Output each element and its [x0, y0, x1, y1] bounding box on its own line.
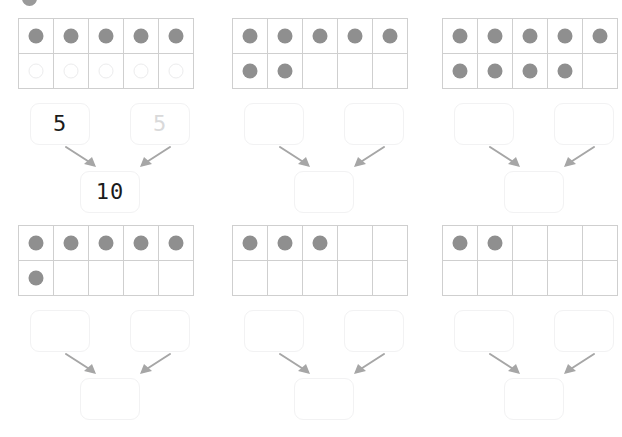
- ten-frame-cell-top-3[interactable]: [513, 226, 548, 261]
- ten-frame-cell-top-2[interactable]: [268, 19, 303, 54]
- ten-frame-cell-bottom-4[interactable]: [548, 54, 583, 89]
- ten-frame-cell-top-1[interactable]: [233, 19, 268, 54]
- number-bond-exercise: [442, 8, 622, 218]
- number-bond: [18, 310, 218, 425]
- ten-frame-cell-top-1[interactable]: [233, 226, 268, 261]
- ten-frame-cell-bottom-5[interactable]: [159, 261, 194, 296]
- number-bond-sum-box[interactable]: [80, 378, 140, 420]
- ten-frame-cell-bottom-4[interactable]: [124, 54, 159, 89]
- counter-dot-icon: [169, 236, 184, 251]
- ten-frame-cell-bottom-1[interactable]: [443, 54, 478, 89]
- ten-frame-cell-top-5[interactable]: [373, 226, 408, 261]
- ten-frame: [232, 18, 408, 89]
- number-bond-addend-left-box[interactable]: [30, 310, 90, 352]
- ten-frame-cell-top-5[interactable]: [583, 19, 618, 54]
- ten-frame-cell-top-4[interactable]: [338, 19, 373, 54]
- ten-frame-cell-top-3[interactable]: [513, 19, 548, 54]
- ten-frame-cell-bottom-2[interactable]: [478, 54, 513, 89]
- number-bond-sum-box[interactable]: [294, 171, 354, 213]
- number-bond-addend-left-box[interactable]: 5: [30, 103, 90, 145]
- ten-frame-cell-bottom-5[interactable]: [159, 54, 194, 89]
- ten-frame-cell-top-2[interactable]: [268, 226, 303, 261]
- ten-frame-cell-bottom-3[interactable]: [303, 261, 338, 296]
- ten-frame-cell-top-3[interactable]: [303, 226, 338, 261]
- ten-frame-cell-top-2[interactable]: [54, 19, 89, 54]
- ten-frame-cell-top-2[interactable]: [54, 226, 89, 261]
- number-bond-addend-right-box[interactable]: 5: [130, 103, 190, 145]
- counter-dot-icon: [453, 236, 468, 251]
- number-bond: [232, 310, 432, 425]
- number-bond-addend-left-box[interactable]: [244, 103, 304, 145]
- ten-frame-cell-top-1[interactable]: [19, 226, 54, 261]
- number-bond-exercise: 55 10: [18, 8, 218, 218]
- ten-frame-cell-bottom-2[interactable]: [268, 54, 303, 89]
- counter-dot-icon: [488, 64, 503, 79]
- ten-frame-cell-bottom-1[interactable]: [233, 54, 268, 89]
- ten-frame-cell-top-5[interactable]: [373, 19, 408, 54]
- counter-dot-icon: [488, 236, 503, 251]
- number-bond-addend-left-box[interactable]: [244, 310, 304, 352]
- ten-frame-cell-bottom-5[interactable]: [583, 54, 618, 89]
- ten-frame-cell-bottom-2[interactable]: [54, 54, 89, 89]
- counter-dot-icon: [134, 29, 149, 44]
- ten-frame-cell-bottom-1[interactable]: [443, 261, 478, 296]
- ten-frame-cell-bottom-2[interactable]: [268, 261, 303, 296]
- number-bond-addend-left-value: 5: [53, 113, 67, 135]
- ten-frame-cell-bottom-1[interactable]: [19, 261, 54, 296]
- number-bond-addend-left-box[interactable]: [454, 103, 514, 145]
- ten-frame-cell-top-3[interactable]: [89, 226, 124, 261]
- counter-dot-icon: [313, 29, 328, 44]
- ten-frame-cell-top-4[interactable]: [124, 19, 159, 54]
- number-bond-addend-right-box[interactable]: [554, 103, 614, 145]
- ten-frame-cell-top-5[interactable]: [583, 226, 618, 261]
- ten-frame-cell-top-1[interactable]: [443, 226, 478, 261]
- number-bond-sum-box[interactable]: 10: [80, 171, 140, 213]
- number-bond-addend-left-box[interactable]: [454, 310, 514, 352]
- number-bond-addend-right-box[interactable]: [344, 103, 404, 145]
- number-bond-sum-box[interactable]: [504, 378, 564, 420]
- number-bond-sum-box[interactable]: [504, 171, 564, 213]
- ten-frame-cell-top-2[interactable]: [478, 226, 513, 261]
- ten-frame-cell-top-4[interactable]: [548, 226, 583, 261]
- ten-frame-cell-bottom-2[interactable]: [478, 261, 513, 296]
- ten-frame-cell-bottom-4[interactable]: [124, 261, 159, 296]
- ten-frame-cell-top-4[interactable]: [338, 226, 373, 261]
- ten-frame-cell-top-3[interactable]: [89, 19, 124, 54]
- ten-frame-cell-bottom-5[interactable]: [373, 54, 408, 89]
- ten-frame-cell-top-4[interactable]: [124, 226, 159, 261]
- ten-frame-cell-top-2[interactable]: [478, 19, 513, 54]
- ten-frame-cell-bottom-3[interactable]: [89, 261, 124, 296]
- ten-frame-cell-bottom-3[interactable]: [513, 54, 548, 89]
- ten-frame-cell-bottom-4[interactable]: [338, 54, 373, 89]
- counter-dot-icon: [593, 29, 608, 44]
- ten-frame-cell-bottom-5[interactable]: [373, 261, 408, 296]
- number-bond-arrows: [442, 145, 622, 173]
- ten-frame-cell-top-1[interactable]: [443, 19, 478, 54]
- ten-frame-cell-top-3[interactable]: [303, 19, 338, 54]
- number-bond: [232, 103, 432, 218]
- counter-dot-icon: [278, 64, 293, 79]
- ten-frame-cell-bottom-2[interactable]: [54, 261, 89, 296]
- number-bond-addend-right-box[interactable]: [130, 310, 190, 352]
- number-bond-addend-right-box[interactable]: [554, 310, 614, 352]
- number-bond-addend-right-box[interactable]: [344, 310, 404, 352]
- ten-frame-cell-bottom-1[interactable]: [233, 261, 268, 296]
- ten-frame-cell-bottom-5[interactable]: [583, 261, 618, 296]
- number-bond-sum-box[interactable]: [294, 378, 354, 420]
- ten-frame-cell-bottom-3[interactable]: [89, 54, 124, 89]
- counter-dot-icon: [558, 29, 573, 44]
- ten-frame-cell-top-5[interactable]: [159, 226, 194, 261]
- counter-dot-icon: [64, 236, 79, 251]
- counter-dot-icon: [278, 29, 293, 44]
- ten-frame-cell-bottom-4[interactable]: [548, 261, 583, 296]
- number-bond: [442, 310, 622, 425]
- ten-frame-cell-top-5[interactable]: [159, 19, 194, 54]
- ten-frame-cell-top-4[interactable]: [548, 19, 583, 54]
- number-bond-arrows: [18, 352, 218, 380]
- ten-frame-cell-bottom-4[interactable]: [338, 261, 373, 296]
- counter-dot-icon: [29, 29, 44, 44]
- ten-frame-cell-bottom-3[interactable]: [303, 54, 338, 89]
- ten-frame-cell-top-1[interactable]: [19, 19, 54, 54]
- ten-frame-cell-bottom-3[interactable]: [513, 261, 548, 296]
- ten-frame-cell-bottom-1[interactable]: [19, 54, 54, 89]
